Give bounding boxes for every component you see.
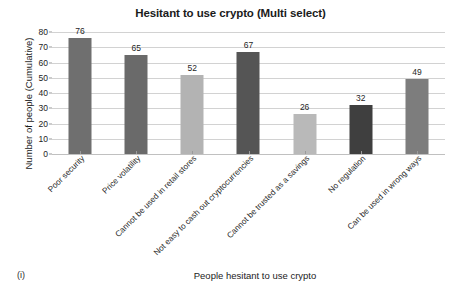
y-axis-tick-label: 10 <box>39 134 48 144</box>
bar-value-label: 32 <box>356 93 365 103</box>
y-axis-tick-label: 50 <box>39 73 48 83</box>
bar-slot: 67 <box>220 32 276 154</box>
bar[interactable] <box>237 52 260 154</box>
y-axis-tick-label: 80 <box>39 27 48 37</box>
x-axis-category-label: Poor security <box>46 154 86 194</box>
bar[interactable] <box>181 75 204 154</box>
bar[interactable] <box>349 105 372 154</box>
y-axis-tick-label: 20 <box>39 119 48 129</box>
bar[interactable] <box>405 79 428 154</box>
bar-series: 76655267263249 <box>52 32 445 154</box>
y-axis-tick-label: 40 <box>39 88 48 98</box>
bar[interactable] <box>69 38 92 154</box>
y-axis-tick-label: 30 <box>39 103 48 113</box>
y-axis-title: Number of people (Cumulative) <box>23 24 34 184</box>
x-axis-category-label: Not easy to cash out cryptocurrencies <box>152 154 255 257</box>
bar[interactable] <box>293 114 316 154</box>
bar-value-label: 65 <box>131 43 140 53</box>
x-axis-category-label: No regulation <box>326 154 367 195</box>
bar-slot: 76 <box>52 32 108 154</box>
bar-slot: 26 <box>277 32 333 154</box>
plot-area: 01020304050607080 76655267263249 <box>52 32 445 154</box>
bar-slot: 49 <box>389 32 445 154</box>
chart-title: Hesitant to use crypto (Multi select) <box>0 7 461 19</box>
bar-value-label: 49 <box>412 67 421 77</box>
bar-value-label: 67 <box>244 40 253 50</box>
bar-value-label: 52 <box>188 63 197 73</box>
y-axis-tick-label: 60 <box>39 58 48 68</box>
figure-marker: (i) <box>17 270 25 280</box>
x-axis-category-labels: Poor securityPrice volatilityCannot be u… <box>52 154 445 270</box>
figure-container: Hesitant to use crypto (Multi select) Nu… <box>0 0 461 302</box>
x-axis-category-label: Price volatility <box>101 154 143 196</box>
y-axis-tick-label: 0 <box>43 149 48 159</box>
bar-value-label: 76 <box>75 26 84 36</box>
bar-slot: 52 <box>164 32 220 154</box>
bar-value-label: 26 <box>300 102 309 112</box>
bar-slot: 32 <box>333 32 389 154</box>
x-axis-title: People hesitant to use crypto <box>140 270 370 281</box>
bar-slot: 65 <box>108 32 164 154</box>
y-axis-tick-label: 70 <box>39 42 48 52</box>
bar[interactable] <box>125 55 148 154</box>
